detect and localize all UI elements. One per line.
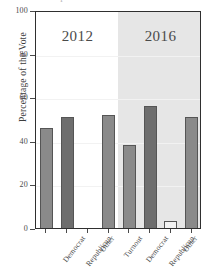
chart-title-cropped: Comparison of 2012 and 2016 Presidential…	[40, 0, 200, 2]
plot-area: 20122016	[35, 11, 201, 229]
x-tick	[128, 229, 129, 233]
bar-2012-other	[81, 228, 94, 229]
x-tick-label-2016-other: Other	[181, 234, 199, 254]
x-tick	[45, 229, 46, 233]
election-bar-chart-figure: Comparison of 2012 and 2016 Presidential…	[0, 0, 203, 268]
gridline	[36, 99, 200, 100]
bar-2016-other	[164, 221, 177, 229]
x-tick	[108, 229, 109, 233]
bar-2016-democrat	[123, 145, 136, 229]
x-tick	[170, 229, 171, 233]
y-tick-label: 20	[0, 180, 28, 189]
y-tick	[30, 229, 35, 230]
y-tick-label: 100	[0, 6, 28, 15]
x-tick	[149, 229, 150, 233]
y-tick-label: 80	[0, 50, 28, 59]
bar-2016-turnout	[185, 117, 198, 229]
x-tick-label-2016-democrat: Democrat	[144, 234, 170, 264]
x-tick	[87, 229, 88, 233]
x-tick	[191, 229, 192, 233]
bar-2012-democrat	[40, 128, 53, 230]
group-label-2016: 2016	[121, 28, 201, 45]
bar-2012-turnout	[102, 115, 115, 230]
bar-2012-republican	[61, 117, 74, 229]
gridline	[36, 56, 200, 57]
y-tick-label: 0	[0, 224, 28, 233]
x-tick	[66, 229, 67, 233]
x-tick-label-2012-turnout: Turnout	[121, 234, 144, 259]
group-label-2012: 2012	[38, 28, 118, 45]
y-axis-title: Percentage of the Vote	[18, 0, 28, 157]
y-tick-label: 60	[0, 93, 28, 102]
y-tick-label: 40	[0, 137, 28, 146]
x-tick-label-2012-other: Other	[98, 234, 116, 254]
bar-2016-republican	[144, 106, 157, 229]
x-tick-label-2012-democrat: Democrat	[61, 234, 87, 264]
